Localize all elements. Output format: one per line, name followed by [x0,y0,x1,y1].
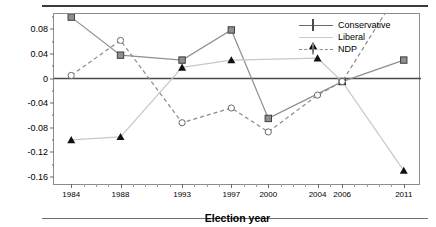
plot-area: Competence rating 0.080.040-0.04-0.08-0.… [53,13,420,185]
x-tick-label: 1997 [222,190,240,199]
x-tick-label: 2000 [259,190,277,199]
y-tick-label: 0 [43,74,48,84]
data-point-ndp [68,72,74,78]
data-point-conservative [117,52,123,58]
y-tick-label: -0.08 [27,123,48,133]
data-point-liberal [400,167,408,174]
chart-figure: Competence rating 0.080.040-0.04-0.08-0.… [0,0,436,227]
legend-item-liberal: Liberal [299,31,391,43]
data-point-conservative [179,57,185,63]
x-tick-label: 2004 [309,190,327,199]
legend-label-conservative: Conservative [338,19,391,31]
legend: Conservative Liberal NDP [299,19,391,55]
legend-item-conservative: Conservative [299,19,391,31]
y-tick-label: -0.04 [27,98,48,108]
data-point-ndp [339,78,345,84]
y-tick-label: 0.04 [30,49,48,59]
legend-swatch-liberal [299,31,333,43]
data-point-ndp [265,129,271,135]
top-divider-rule [42,5,428,7]
y-axis-title: Competence rating [10,0,22,24]
data-point-conservative [401,57,407,63]
square-marker-icon [312,19,314,31]
legend-label-ndp: NDP [338,43,357,55]
x-tick-label: 1993 [173,190,191,199]
x-axis-title: Election year [54,212,421,224]
data-point-conservative [68,14,74,20]
open-circle-marker-icon [312,43,314,55]
data-point-ndp [117,37,123,43]
legend-label-liberal: Liberal [338,31,365,43]
series-line-liberal [71,58,404,170]
x-tick-label: 2011 [395,190,412,199]
data-point-ndp [314,92,320,98]
data-point-conservative [265,115,271,121]
data-point-ndp [228,105,234,111]
data-point-conservative [228,27,234,33]
legend-swatch-conservative [299,19,333,31]
legend-item-ndp: NDP [299,43,391,55]
legend-swatch-ndp [299,43,333,55]
data-point-ndp [179,120,185,126]
y-tick-label: -0.16 [27,172,48,182]
x-tick-label: 1984 [62,190,80,199]
x-tick-label: 1988 [112,190,130,199]
y-tick-label: 0.08 [30,24,48,34]
y-tick-label: -0.12 [27,147,48,157]
x-tick-label: 2006 [333,190,351,199]
